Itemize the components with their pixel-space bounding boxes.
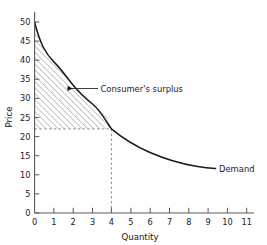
consumer-surplus-chart: 0 5 10 15 20 25 30 35 40 45 50 xyxy=(0,0,267,245)
y-tick-label: 25 xyxy=(20,113,30,123)
y-tick-label: 0 xyxy=(25,208,30,218)
y-tick-label: 10 xyxy=(20,170,30,180)
x-tick-label: 0 xyxy=(32,217,37,227)
y-tick-label: 5 xyxy=(25,189,30,199)
x-tick-label: 11 xyxy=(241,217,251,227)
y-tick-label: 40 xyxy=(20,55,30,65)
demand-label: Demand xyxy=(219,164,255,174)
y-tick-label: 15 xyxy=(20,151,30,161)
y-tick-label: 50 xyxy=(20,17,30,27)
x-tick-label: 6 xyxy=(148,217,153,227)
x-axis-ticks xyxy=(54,208,247,213)
consumers-surplus-annotation: Consumer's surplus xyxy=(68,84,183,94)
consumers-surplus-label: Consumer's surplus xyxy=(101,84,183,94)
x-tick-label: 5 xyxy=(128,217,133,227)
x-tick-label: 3 xyxy=(90,217,95,227)
x-tick-label: 1 xyxy=(51,217,56,227)
x-tick-label: 7 xyxy=(167,217,172,227)
x-tick-label: 8 xyxy=(186,217,191,227)
y-axis-title: Price xyxy=(4,107,14,128)
y-axis-tick-labels: 0 5 10 15 20 25 30 35 40 45 50 xyxy=(20,17,30,218)
y-tick-label: 35 xyxy=(20,74,30,84)
chart-canvas: 0 5 10 15 20 25 30 35 40 45 50 xyxy=(0,0,267,245)
y-tick-label: 45 xyxy=(20,36,30,46)
y-tick-label: 30 xyxy=(20,93,30,103)
x-tick-label: 2 xyxy=(71,217,76,227)
y-tick-label: 20 xyxy=(20,132,30,142)
x-axis-tick-labels: 0 1 2 3 4 5 6 7 8 9 10 11 xyxy=(32,217,252,227)
x-tick-label: 4 xyxy=(109,217,114,227)
x-tick-label: 9 xyxy=(205,217,210,227)
x-tick-label: 10 xyxy=(222,217,232,227)
x-axis-title: Quantity xyxy=(121,232,158,242)
